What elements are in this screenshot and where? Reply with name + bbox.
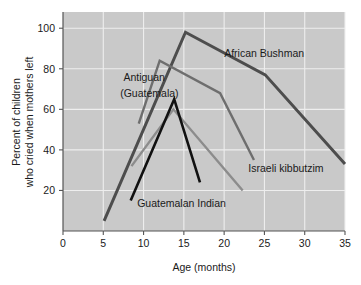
y-tick-label: 100 [37, 22, 55, 34]
y-tick-label: 60 [43, 103, 55, 115]
y-tick-label: 80 [43, 63, 55, 75]
crying-children-line-chart: 05101520253035 20406080100 African Bushm… [0, 0, 361, 285]
y-tick-label: 20 [43, 184, 55, 196]
x-tick-label: 15 [178, 237, 190, 249]
y-axis-title-line2: who cried when mothers left [23, 57, 35, 189]
x-tick-label: 30 [299, 237, 311, 249]
x-tick-label: 10 [138, 237, 150, 249]
series-label-guatemala: (Guatemala) [120, 87, 178, 99]
series-label-antiguan: Antiguan [123, 71, 165, 83]
series-label-israeli-kibbutzim: Israeli kibbutzim [248, 162, 324, 174]
chart-figure: 05101520253035 20406080100 African Bushm… [0, 0, 361, 285]
x-axis-title: Age (months) [172, 261, 235, 273]
x-tick-label: 0 [60, 237, 66, 249]
x-tick-label: 5 [100, 237, 106, 249]
x-tick-label: 35 [339, 237, 351, 249]
x-tick-label: 25 [259, 237, 271, 249]
y-tick-label: 40 [43, 144, 55, 156]
series-label-guatemalan-indian: Guatemalan Indian [137, 197, 226, 209]
y-axis-title-line1: Percent of children [10, 78, 22, 166]
series-label-african-bushman: African Bushman [224, 47, 304, 59]
x-tick-label: 20 [218, 237, 230, 249]
